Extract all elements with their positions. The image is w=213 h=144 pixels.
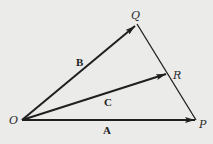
vector-label-b: B xyxy=(76,56,84,68)
vector-label-c: C xyxy=(104,96,112,108)
point-label-q: Q xyxy=(131,9,140,22)
vector-triangle-diagram: O P Q R B C A xyxy=(0,0,213,144)
vector-b-arrow xyxy=(22,26,135,120)
vector-c-arrow xyxy=(22,74,166,120)
point-label-r: R xyxy=(172,69,181,82)
point-label-p: P xyxy=(198,118,207,131)
vector-label-a: A xyxy=(103,124,111,136)
segment-qp xyxy=(137,24,196,120)
point-label-o: O xyxy=(9,114,18,127)
